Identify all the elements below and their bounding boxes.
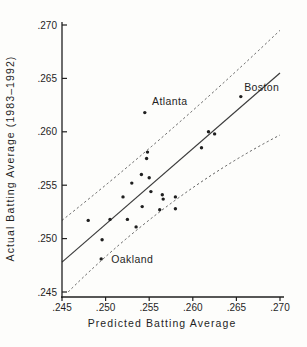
scatter-point [207, 130, 210, 133]
x-tick-label: .245 [52, 302, 72, 313]
batting-average-chart: .245.250.255.260.265.270.245.250.255.260… [0, 0, 307, 347]
x-tick-label: .265 [227, 302, 247, 313]
scatter-point [162, 197, 165, 200]
scatter-point [200, 146, 203, 149]
scatter-point [158, 208, 161, 211]
y-tick-label: .260 [38, 126, 58, 137]
scatter-point [100, 257, 103, 260]
scatter-point [108, 218, 111, 221]
x-tick-label: .255 [139, 302, 159, 313]
scatter-point [126, 218, 129, 221]
scatter-point [148, 176, 151, 179]
upper-confidence-band [62, 30, 280, 220]
y-axis-title: Actual Batting Average (1983–1992) [4, 56, 16, 262]
scatter-point [174, 195, 177, 198]
scatter-plot-figure: .245.250.255.260.265.270.245.250.255.260… [0, 0, 307, 347]
scatter-point [239, 95, 242, 98]
x-tick-label: .260 [183, 302, 203, 313]
y-tick-label: .270 [38, 20, 58, 31]
scatter-point [140, 173, 143, 176]
scatter-point [213, 132, 216, 135]
x-axis-title: Predicted Batting Average [88, 317, 237, 329]
y-tick-label: .245 [38, 287, 58, 298]
x-tick-label: .270 [270, 302, 290, 313]
y-tick-label: .250 [38, 233, 58, 244]
scatter-point [100, 238, 103, 241]
scatter-point [146, 150, 149, 153]
scatter-point [130, 181, 133, 184]
x-tick-label: .250 [96, 302, 116, 313]
scatter-point [145, 157, 148, 160]
scatter-point [134, 225, 137, 228]
scatter-point [161, 193, 164, 196]
scatter-point [87, 219, 90, 222]
scatter-point [143, 111, 146, 114]
scatter-point [174, 207, 177, 210]
y-tick-label: .255 [38, 180, 58, 191]
scatter-point [141, 205, 144, 208]
annotation-oakland: Oakland [111, 253, 153, 265]
annotation-boston: Boston [244, 81, 279, 93]
annotation-atlanta: Atlanta [152, 95, 188, 107]
y-tick-label: .265 [38, 73, 58, 84]
scatter-point [149, 190, 152, 193]
lower-confidence-band [68, 135, 280, 292]
scatter-point [121, 195, 124, 198]
